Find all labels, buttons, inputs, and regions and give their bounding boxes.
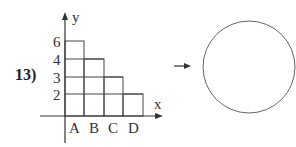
ytick-3: 3 [53,70,61,86]
pie-circle [203,21,295,113]
x-axis-arrow-icon [155,113,163,119]
xtick-d: D [128,120,139,136]
xtick-c: C [108,120,118,136]
y-axis-arrow-icon [62,12,68,20]
bar-b [84,59,104,116]
bars [65,41,143,116]
bar-c [104,77,123,116]
bar-a [65,41,84,116]
chart-canvas: y x 6 4 3 2 A B C D [0,0,296,147]
transform-arrow-icon [174,63,191,69]
bar-d [123,94,143,116]
x-axis-label: x [154,96,162,112]
ytick-4: 4 [53,52,61,68]
ytick-6: 6 [53,34,61,50]
xtick-a: A [69,120,80,136]
xtick-b: B [89,120,99,136]
ytick-2: 2 [53,87,61,103]
y-axis-label: y [72,9,80,25]
